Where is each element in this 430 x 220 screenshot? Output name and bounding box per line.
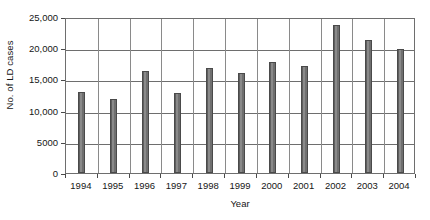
bar-chart-figure: No. of LD cases 0500010,00015,00020,0002…	[0, 0, 430, 220]
x-axis-tick	[415, 174, 416, 178]
x-axis-tick	[351, 174, 352, 178]
x-axis-title: Year	[65, 198, 415, 209]
x-axis-tick	[288, 174, 289, 178]
y-axis-tick	[61, 80, 65, 81]
bar	[365, 40, 372, 173]
plot-area	[65, 18, 415, 174]
y-axis-tick-label: 20,000	[14, 44, 58, 54]
x-axis-tick-label: 2004	[379, 180, 419, 191]
bar	[238, 73, 245, 173]
x-axis-tick	[97, 174, 98, 178]
x-axis-tick	[65, 174, 66, 178]
bars-layer	[66, 19, 414, 173]
bar	[301, 66, 308, 173]
y-axis-tick-label: 25,000	[14, 13, 58, 23]
bar	[206, 68, 213, 173]
y-axis-tick	[61, 49, 65, 50]
bar	[333, 25, 340, 174]
bar	[142, 71, 149, 173]
y-axis-tick-labels: 0500010,00015,00020,00025,000	[14, 0, 58, 220]
x-axis-tick	[256, 174, 257, 178]
y-axis-tick-label: 15,000	[14, 75, 58, 85]
x-axis-tick	[129, 174, 130, 178]
bar	[397, 49, 404, 173]
y-axis-tick	[61, 18, 65, 19]
y-axis-tick-label: 10,000	[14, 107, 58, 117]
x-axis-tick	[383, 174, 384, 178]
bar	[174, 93, 181, 173]
y-axis-tick-label: 5000	[14, 138, 58, 148]
bar	[269, 62, 276, 173]
y-axis-tick	[61, 143, 65, 144]
y-axis-tick	[61, 112, 65, 113]
y-axis-tick-label: 0	[14, 169, 58, 179]
x-axis-tick	[224, 174, 225, 178]
bar	[110, 99, 117, 173]
x-axis-tick	[192, 174, 193, 178]
x-axis-tick	[320, 174, 321, 178]
x-axis-tick	[160, 174, 161, 178]
bar	[78, 92, 85, 173]
